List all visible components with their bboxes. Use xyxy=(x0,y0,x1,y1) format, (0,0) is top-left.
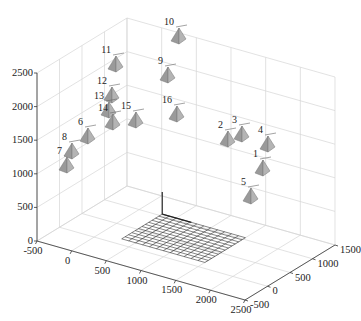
y-tick-label: 0 xyxy=(273,285,278,296)
camera-label: 6 xyxy=(78,116,83,127)
camera-frustum-face xyxy=(72,143,79,159)
x-tick-label: 1500 xyxy=(161,284,182,295)
camera-label: 14 xyxy=(98,102,108,113)
camera-label: 13 xyxy=(94,90,104,101)
camera-pose-5: 5 xyxy=(241,176,259,204)
camera-axis-ray xyxy=(109,84,120,86)
camera-frustum-face xyxy=(80,128,88,144)
camera-label: 16 xyxy=(162,94,172,105)
camera-axis-ray xyxy=(248,185,259,187)
y-tick-label: 1000 xyxy=(318,258,339,269)
camera-axis-ray xyxy=(225,128,236,130)
camera-pose-4: 4 xyxy=(258,124,276,152)
camera-frustum-face xyxy=(67,157,74,173)
camera-pose-6: 6 xyxy=(78,116,96,144)
camera-label: 9 xyxy=(158,55,163,66)
camera-label: 10 xyxy=(164,16,174,27)
camera-frustum-face xyxy=(160,67,168,83)
camera-frustum-face xyxy=(263,160,270,176)
camera-frustum-face xyxy=(168,67,175,83)
x-tick xyxy=(174,280,176,283)
camera-label: 11 xyxy=(101,44,111,55)
checkerboard-line xyxy=(145,224,228,248)
camera-label: 5 xyxy=(241,176,246,187)
camera-axis-ray xyxy=(176,25,187,27)
checkerboard-line xyxy=(142,226,225,250)
z-tick-label: 2000 xyxy=(12,101,33,112)
z-tick-label: 2500 xyxy=(12,67,33,78)
y-tick-label: -500 xyxy=(250,299,269,310)
camera-frustum-face xyxy=(64,143,72,159)
camera-frustum-face xyxy=(220,131,228,147)
camera-label: 8 xyxy=(62,131,67,142)
checkerboard-line xyxy=(159,216,242,240)
camera-frustum-face xyxy=(255,160,263,176)
camera-label: 15 xyxy=(121,100,131,111)
camera-frustum-face xyxy=(88,128,95,144)
camera-label: 1 xyxy=(253,148,258,159)
y-tick xyxy=(268,286,271,287)
y-tick xyxy=(245,300,248,301)
y-tick xyxy=(313,259,316,260)
camera-pose-8: 8 xyxy=(62,131,80,159)
camera-frustum-face xyxy=(169,106,177,122)
x-tick-label: 0 xyxy=(65,255,70,266)
x-tick-label: 500 xyxy=(94,265,110,276)
x-tick-label: 1000 xyxy=(127,275,148,286)
checkerboard-line xyxy=(155,218,238,242)
camera-frustum-face xyxy=(260,136,268,152)
camera-frustum-face xyxy=(171,28,179,44)
camera-frustum-face xyxy=(243,188,251,204)
y-tick-label: 1500 xyxy=(340,244,361,255)
x-tick xyxy=(140,271,142,274)
camera-label: 2 xyxy=(218,119,223,130)
checkerboard-line xyxy=(152,220,235,244)
grid-lines xyxy=(37,18,335,300)
camera-axis-ray xyxy=(85,125,96,127)
camera-frustum-face xyxy=(113,114,120,130)
camera-frustum-face xyxy=(136,112,143,128)
camera-axis-ray xyxy=(69,140,80,142)
camera-axis-ray xyxy=(239,123,250,125)
camera-frustum-face xyxy=(177,106,184,122)
x-tick xyxy=(209,290,211,293)
camera-frustum-face xyxy=(128,112,136,128)
camera-frustum-face xyxy=(112,87,119,103)
camera-label: 12 xyxy=(97,75,107,86)
camera-label: 4 xyxy=(258,124,263,135)
camera-frustum-face xyxy=(251,188,258,204)
camera-pose-15: 15 xyxy=(121,100,144,128)
camera-axis-ray xyxy=(174,103,185,105)
x-tick xyxy=(105,261,107,264)
camera-frustum-face xyxy=(108,56,116,72)
x-tick xyxy=(70,251,72,254)
camera-label: 3 xyxy=(232,114,237,125)
camera-pose-10: 10 xyxy=(164,16,187,44)
camera-label: 7 xyxy=(57,145,62,156)
camera-axis-ray xyxy=(265,133,276,135)
checkerboard-plane xyxy=(122,192,246,263)
x-tick xyxy=(244,300,246,303)
camera-frustum-face xyxy=(116,56,123,72)
camera-pose-1: 1 xyxy=(253,148,271,176)
z-tick-label: 1000 xyxy=(12,168,33,179)
x-tick-label: -500 xyxy=(23,245,42,256)
camera-frustum-face xyxy=(179,28,186,44)
z-tick-label: 1500 xyxy=(12,134,33,145)
camera-axis-ray xyxy=(133,109,144,111)
y-tick xyxy=(290,273,293,274)
3d-plot: -50005001000150020002500-500050010001500… xyxy=(0,0,361,321)
x-tick-label: 2000 xyxy=(196,294,217,305)
z-tick-label: 500 xyxy=(17,201,33,212)
camera-frustum-face xyxy=(242,126,249,142)
z-tick-label: 0 xyxy=(28,235,33,246)
floor-grid-y xyxy=(60,227,268,286)
checkerboard-line xyxy=(149,222,232,246)
camera-poses: 12345678910111213141516 xyxy=(57,16,276,204)
y-tick-label: 500 xyxy=(295,272,311,283)
camera-pose-9: 9 xyxy=(158,55,176,83)
x-tick xyxy=(36,241,38,244)
x-tick-label: 2500 xyxy=(231,304,252,315)
y-tick xyxy=(335,245,338,246)
camera-frustum-face xyxy=(268,136,275,152)
